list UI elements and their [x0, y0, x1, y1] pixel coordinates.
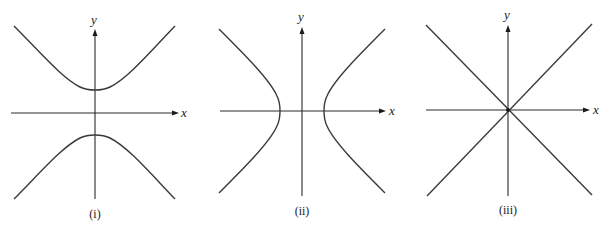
x-axis-label: x — [180, 105, 187, 120]
x-axis-arrow-icon — [583, 108, 590, 113]
panel-caption: (ii) — [295, 204, 310, 218]
panel-i: x y (i) — [11, 12, 187, 221]
y-axis-label: y — [89, 12, 97, 27]
y-axis-label: y — [502, 7, 510, 22]
x-axis-arrow-icon — [172, 111, 179, 116]
x-axis-label: x — [388, 103, 395, 118]
y-axis-arrow-icon — [506, 25, 511, 32]
panel-caption: (i) — [89, 207, 100, 221]
y-axis-label: y — [296, 9, 304, 24]
hyperbola-figure: x y (i) x y (ii) x y — [0, 0, 613, 239]
y-axis-arrow-icon — [93, 29, 98, 36]
panel-caption: (iii) — [499, 203, 517, 217]
origin-point — [506, 108, 510, 112]
y-axis-arrow-icon — [300, 27, 305, 34]
x-axis-label: x — [592, 102, 599, 117]
panel-iii: x y (iii) — [426, 7, 599, 217]
x-axis-arrow-icon — [379, 109, 386, 114]
panel-ii: x y (ii) — [219, 9, 395, 218]
